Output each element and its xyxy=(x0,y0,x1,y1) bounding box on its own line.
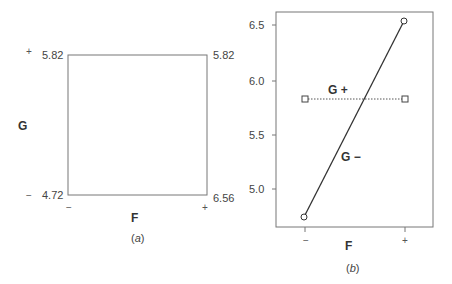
y-tick-label: 5.5 xyxy=(249,129,264,141)
y-tick-label: 6.0 xyxy=(249,75,264,87)
panel-b: 6.5 6.0 5.5 5.0 − + F G + G − (b) xyxy=(249,12,433,274)
series-g-minus-line xyxy=(304,21,404,217)
x-low-sign: − xyxy=(66,202,72,213)
series-g-minus-label: G − xyxy=(341,150,361,164)
square-marker-icon xyxy=(302,96,308,102)
x-tick-label-low: − xyxy=(303,235,309,246)
corner-top-left-value: 5.82 xyxy=(42,49,63,61)
y-factor-label: G xyxy=(18,119,27,133)
panel-a: + − 5.82 5.82 4.72 6.56 − + G F (a) xyxy=(18,46,234,244)
x-axis-label: F xyxy=(345,239,352,253)
corner-top-right-value: 5.82 xyxy=(213,49,234,61)
x-high-sign: + xyxy=(202,202,208,213)
x-tick-label-high: + xyxy=(402,235,408,246)
plot-frame xyxy=(276,12,433,227)
square-marker-icon xyxy=(402,96,408,102)
x-factor-label: F xyxy=(131,211,138,225)
circle-marker-icon xyxy=(301,214,307,220)
panel-b-caption: (b) xyxy=(346,262,359,274)
y-tick-label: 5.0 xyxy=(249,183,264,195)
circle-marker-icon xyxy=(401,18,407,24)
y-tick-label: 6.5 xyxy=(249,19,264,31)
corner-bottom-left-value: 4.72 xyxy=(42,189,63,201)
y-high-sign: + xyxy=(26,46,32,57)
y-low-sign: − xyxy=(26,190,32,201)
corner-bottom-right-value: 6.56 xyxy=(213,192,234,204)
design-square xyxy=(68,55,207,195)
series-g-plus-label: G + xyxy=(328,83,348,97)
panel-a-caption: (a) xyxy=(131,232,144,244)
